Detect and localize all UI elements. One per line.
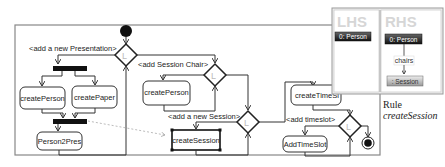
rule-panel: LHS RHS 0: Person 0: Person chairs : Ses… <box>332 8 443 94</box>
initial-node <box>120 25 132 37</box>
lhs-title: LHS <box>337 13 367 30</box>
svg-text:createPerson: createPerson <box>144 88 189 97</box>
svg-text:createPaper: createPaper <box>74 93 115 102</box>
svg-text:L: L <box>211 71 216 81</box>
guard-add-new-session: <add a new Session> <box>168 112 241 121</box>
rhs-title: RHS <box>385 13 417 30</box>
guard-add-presentation: <add a new Presentation> <box>29 44 117 53</box>
rule-name: createSession <box>383 110 438 121</box>
svg-text:0: Person: 0: Person <box>339 33 367 40</box>
svg-text:L: L <box>346 122 351 132</box>
join-bar <box>53 119 87 124</box>
guard-add-timeslot: <add timeslot> <box>286 115 336 124</box>
svg-text:createPerson: createPerson <box>20 94 65 103</box>
svg-text:L: L <box>122 51 127 61</box>
svg-text:AddTimeSlot: AddTimeSlot <box>284 140 328 149</box>
rule-caption: Rule <box>383 99 402 110</box>
svg-text:L: L <box>244 118 249 128</box>
rhs-edge-chairs: chairs <box>395 57 414 64</box>
svg-text:createSession: createSession <box>172 136 220 145</box>
activity-diagram: L <add a new Presentation> createPerson … <box>0 0 445 167</box>
fork-bar <box>53 66 87 71</box>
svg-text:0: Person: 0: Person <box>390 36 418 43</box>
svg-text:Person2Pres: Person2Pres <box>38 137 82 146</box>
svg-text:: Session: : Session <box>392 78 419 85</box>
guard-add-session-chair: <add Session Chair> <box>138 60 209 69</box>
